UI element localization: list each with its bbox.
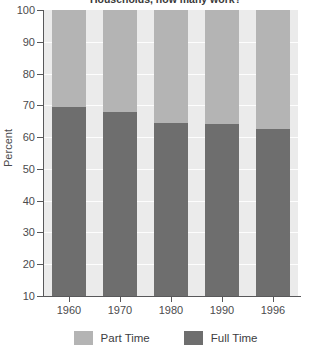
y-axis-tick [37, 105, 43, 106]
legend-item[interactable]: Part Time [74, 331, 150, 345]
x-axis-tick [171, 296, 172, 302]
x-axis-tick [120, 296, 121, 302]
bar-segment-part-time[interactable] [154, 10, 188, 123]
y-axis-line [43, 10, 44, 297]
legend-label: Part Time [101, 331, 150, 345]
bar-segment-full-time[interactable] [205, 124, 239, 296]
bar-1960[interactable] [52, 10, 86, 296]
bar-1970[interactable] [103, 10, 137, 296]
y-axis-tick [37, 10, 43, 11]
chart-legend: Part TimeFull Time [0, 328, 331, 348]
light-gray-swatch [74, 331, 93, 345]
x-axis-label-1996: 1996 [243, 304, 303, 316]
stacked-bar-chart: Households, how many work? 1020304050607… [0, 0, 331, 352]
y-axis-label: 90 [3, 37, 35, 48]
bar-segment-full-time[interactable] [256, 129, 290, 296]
y-axis-label-wrap: 80 [0, 69, 35, 80]
y-axis-tick [37, 74, 43, 75]
x-axis-tick [69, 296, 70, 302]
x-axis-line [37, 296, 301, 297]
x-axis-tick [273, 296, 274, 302]
y-axis-tick [37, 169, 43, 170]
dark-gray-swatch [184, 331, 203, 345]
y-axis-label-wrap: 20 [0, 259, 35, 270]
plot-area [44, 10, 298, 296]
y-axis-title: Percent [2, 118, 14, 178]
y-axis-label: 20 [3, 259, 35, 270]
y-axis-label-wrap: 70 [0, 100, 35, 111]
y-axis-tick [37, 264, 43, 265]
bar-segment-full-time[interactable] [154, 123, 188, 296]
bar-segment-part-time[interactable] [256, 10, 290, 129]
bar-segment-part-time[interactable] [205, 10, 239, 124]
y-axis-label: 70 [3, 100, 35, 111]
bar-segment-full-time[interactable] [103, 112, 137, 296]
legend-label: Full Time [211, 331, 258, 345]
y-axis-label-wrap: 30 [0, 227, 35, 238]
bar-1996[interactable] [256, 10, 290, 296]
y-axis-tick [37, 42, 43, 43]
legend-item[interactable]: Full Time [184, 331, 258, 345]
y-axis-label: 10 [3, 291, 35, 302]
bar-segment-part-time[interactable] [103, 10, 137, 112]
y-axis-label: 100 [3, 5, 35, 16]
y-axis-label-wrap: 40 [0, 196, 35, 207]
y-axis-label: 80 [3, 69, 35, 80]
y-axis-label: 40 [3, 196, 35, 207]
y-axis-label-wrap: 100 [0, 5, 35, 16]
y-axis-tick [37, 137, 43, 138]
x-axis-tick [222, 296, 223, 302]
bar-1990[interactable] [205, 10, 239, 296]
bar-segment-part-time[interactable] [52, 10, 86, 107]
y-axis-tick [37, 232, 43, 233]
y-axis-label-wrap: 10 [0, 291, 35, 302]
y-axis-tick [37, 296, 43, 297]
chart-title: Households, how many work? [0, 0, 331, 6]
bar-1980[interactable] [154, 10, 188, 296]
y-axis-label: 30 [3, 227, 35, 238]
y-axis-tick [37, 201, 43, 202]
bar-segment-full-time[interactable] [52, 107, 86, 296]
y-axis-label-wrap: 90 [0, 37, 35, 48]
